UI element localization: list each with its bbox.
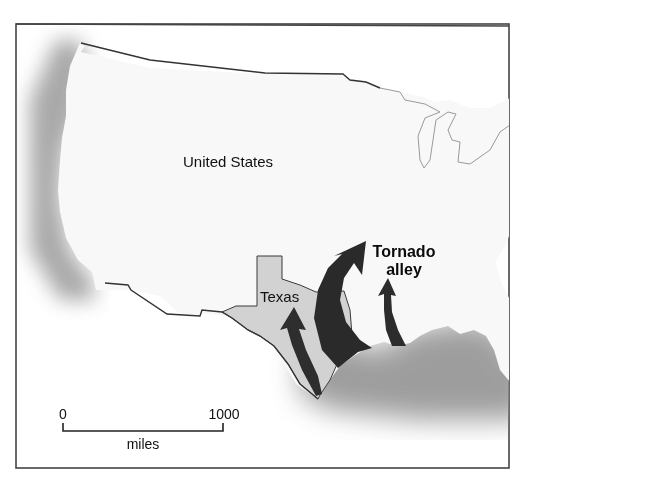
tornado-alley-label-line1: Tornado <box>373 243 436 260</box>
scale-unit-label: miles <box>127 436 160 452</box>
texas-label: Texas <box>260 288 299 305</box>
scale-end-label: 1000 <box>208 406 239 422</box>
canada-border-east <box>520 56 592 104</box>
tornado-alley-map: United States Texas Tornado alley 0 1000… <box>0 0 648 500</box>
tornado-alley-label-line2: alley <box>386 261 422 278</box>
country-label: United States <box>183 153 273 170</box>
scale-start-label: 0 <box>59 406 67 422</box>
